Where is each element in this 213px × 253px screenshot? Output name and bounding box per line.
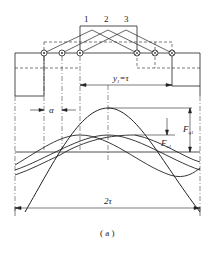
coil-bracket xyxy=(80,26,137,50)
coil-mmf-curve-1 xyxy=(15,135,200,177)
stator-outline xyxy=(15,53,200,96)
span-label: 2τ xyxy=(104,196,113,206)
amplitude-markers xyxy=(108,108,192,152)
alpha-label: α xyxy=(49,105,54,115)
coil-end-windings xyxy=(44,30,172,53)
coil-label-2: 2 xyxy=(104,14,109,24)
resultant-mmf-curve xyxy=(25,108,200,212)
coil-mmf-curve-3 xyxy=(15,135,200,175)
coil-mmf-curve-2 xyxy=(15,135,200,170)
span-dimension xyxy=(15,207,200,217)
pitch-dimension xyxy=(80,84,172,87)
winding-mmf-diagram: 1 2 3 xyxy=(0,0,213,253)
coil-label-3: 3 xyxy=(124,14,129,24)
coil-label-1: 1 xyxy=(84,14,89,24)
pitch-label: y1=τ xyxy=(112,73,130,84)
fq1-label: Fq1 xyxy=(182,124,194,135)
fc1-label: Fc1 xyxy=(160,138,171,149)
figure-caption: ( a ) xyxy=(100,228,115,238)
